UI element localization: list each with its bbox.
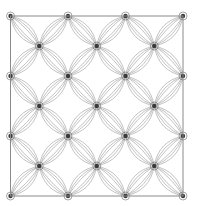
petal-arc bbox=[68, 136, 97, 166]
petal-arc bbox=[68, 76, 97, 106]
petal-arc bbox=[183, 76, 197, 106]
petal-arc bbox=[11, 16, 40, 46]
petal-arc bbox=[39, 0, 68, 16]
petal-arc bbox=[68, 136, 97, 166]
petal-arc bbox=[39, 46, 68, 76]
flower-center-node bbox=[123, 134, 127, 138]
petal-arc bbox=[126, 136, 155, 166]
petal-arc bbox=[0, 0, 11, 16]
petal-arc bbox=[11, 106, 40, 136]
petal-arc bbox=[68, 106, 97, 136]
petal-arc bbox=[0, 46, 11, 76]
petal-arc bbox=[39, 46, 68, 76]
petal-arc bbox=[39, 166, 68, 196]
petal-arc bbox=[97, 16, 126, 46]
petal-arc bbox=[126, 76, 155, 106]
petal-arc bbox=[39, 196, 68, 206]
petal-arc bbox=[126, 76, 155, 106]
petal-arc bbox=[11, 166, 40, 196]
petal-arc bbox=[154, 166, 183, 196]
flower-center-node bbox=[37, 164, 41, 168]
petal-arc bbox=[154, 46, 183, 76]
petal-arc bbox=[126, 136, 155, 166]
petal-arc bbox=[183, 0, 197, 16]
petal-arc bbox=[97, 166, 126, 196]
petal-arc bbox=[183, 0, 197, 16]
petal-arc bbox=[97, 16, 126, 46]
petal-arc bbox=[154, 136, 183, 166]
petal-arc bbox=[97, 106, 126, 136]
petal-arc bbox=[183, 0, 197, 16]
petal-arc bbox=[154, 76, 183, 106]
petal-arc bbox=[154, 46, 183, 76]
flower-center-node bbox=[152, 44, 156, 48]
petal-arc bbox=[97, 46, 126, 76]
petal-arc bbox=[154, 106, 183, 136]
petal-arc bbox=[11, 46, 40, 76]
petal-arc bbox=[0, 0, 11, 16]
petal-arc bbox=[97, 166, 126, 196]
petal-arc bbox=[39, 0, 68, 16]
flower-center-node bbox=[66, 134, 70, 138]
petal-arc bbox=[154, 76, 183, 106]
petal-arc bbox=[126, 196, 155, 206]
petal-arc bbox=[97, 0, 126, 16]
petal-arc bbox=[183, 196, 197, 206]
petal-arc bbox=[11, 196, 40, 206]
petal-arc bbox=[97, 196, 126, 206]
petal-arc bbox=[126, 166, 155, 196]
petal-arc bbox=[0, 76, 11, 106]
petal-arc bbox=[0, 166, 11, 196]
petal-arc bbox=[126, 46, 155, 76]
petal-arc bbox=[97, 76, 126, 106]
petal-arc bbox=[39, 0, 68, 16]
flower-center-node bbox=[95, 44, 99, 48]
petal-arc bbox=[0, 46, 11, 76]
petal-arc bbox=[97, 46, 126, 76]
petal-arc bbox=[97, 0, 126, 16]
petal-arc bbox=[68, 196, 97, 206]
petal-arc bbox=[39, 76, 68, 106]
petal-arc bbox=[154, 136, 183, 166]
petal-arc bbox=[154, 16, 183, 46]
petal-arc bbox=[11, 46, 40, 76]
petal-arc bbox=[183, 16, 197, 46]
petal-arc bbox=[39, 46, 68, 76]
petal-arc bbox=[0, 136, 11, 166]
petal-arc bbox=[97, 136, 126, 166]
petal-arc bbox=[39, 136, 68, 166]
petal-arc bbox=[39, 76, 68, 106]
petal-arc bbox=[126, 166, 155, 196]
petal-arc bbox=[68, 166, 97, 196]
petal-arc bbox=[154, 76, 183, 106]
petal-arc bbox=[183, 166, 197, 196]
petal-arc bbox=[68, 196, 97, 206]
petal-arc bbox=[97, 16, 126, 46]
petal-arc bbox=[39, 16, 68, 46]
petal-arc bbox=[39, 196, 68, 206]
petal-arc bbox=[126, 106, 155, 136]
petal-arc bbox=[126, 16, 155, 46]
petal-arc bbox=[97, 16, 126, 46]
petal-arc bbox=[126, 0, 155, 16]
petal-arc bbox=[154, 46, 183, 76]
petal-arc bbox=[39, 46, 68, 76]
petal-arc bbox=[11, 46, 40, 76]
petal-arc bbox=[126, 76, 155, 106]
petal-arc bbox=[39, 166, 68, 196]
petal-arc bbox=[97, 166, 126, 196]
petal-arc bbox=[0, 76, 11, 106]
petal-arc bbox=[183, 106, 197, 136]
petal-arc bbox=[68, 106, 97, 136]
petal-arc bbox=[0, 16, 11, 46]
petal-arc bbox=[183, 196, 197, 206]
petal-arc bbox=[154, 136, 183, 166]
petal-arc bbox=[183, 196, 197, 206]
petal-arc bbox=[68, 166, 97, 196]
petal-arc bbox=[97, 196, 126, 206]
petal-arc bbox=[39, 136, 68, 166]
petal-arc bbox=[68, 0, 97, 16]
petal-arc bbox=[126, 0, 155, 16]
petal-arc bbox=[0, 0, 11, 16]
petal-arc bbox=[126, 136, 155, 166]
